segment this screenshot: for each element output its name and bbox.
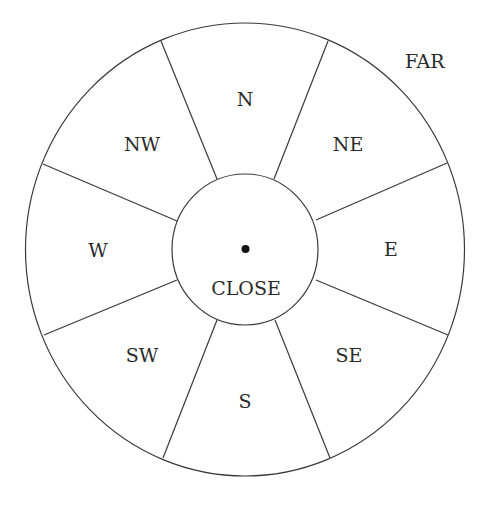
center-point-dot xyxy=(242,245,250,253)
far-zone-label: FAR xyxy=(405,50,445,72)
sector-label-e: E xyxy=(384,238,398,260)
sector-label-sw: SW xyxy=(126,344,159,366)
close-zone-label: CLOSE xyxy=(211,277,281,299)
direction-distance-diagram: NNEESESSWWNW FAR CLOSE xyxy=(0,0,487,505)
sector-label-ne: NE xyxy=(333,133,364,155)
sector-label-se: SE xyxy=(336,344,363,366)
sector-label-n: N xyxy=(237,88,254,110)
sector-label-s: S xyxy=(238,390,251,412)
sector-label-nw: NW xyxy=(124,133,161,155)
sector-label-w: W xyxy=(88,239,108,261)
